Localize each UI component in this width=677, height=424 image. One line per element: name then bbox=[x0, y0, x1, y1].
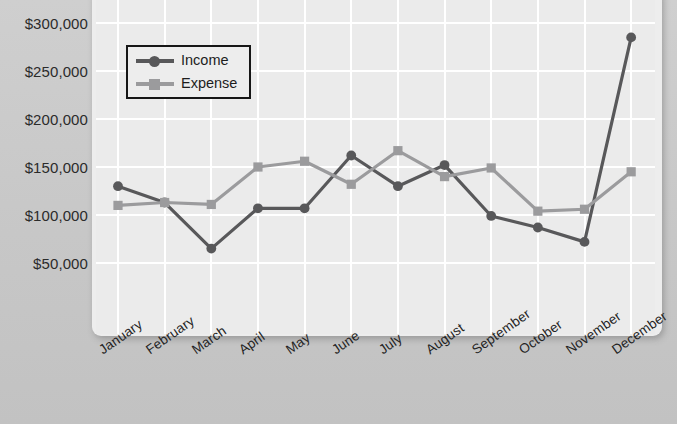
y-axis-tick-label: $50,000 bbox=[0, 255, 88, 272]
data-point-expense[interactable] bbox=[533, 207, 542, 216]
income-marker-icon bbox=[136, 54, 174, 68]
data-point-income[interactable] bbox=[533, 223, 543, 233]
chart-legend[interactable]: Income Expense bbox=[126, 45, 251, 99]
y-axis-tick-label: $150,000 bbox=[0, 159, 88, 176]
data-point-expense[interactable] bbox=[440, 172, 449, 181]
data-point-income[interactable] bbox=[486, 211, 496, 221]
y-axis-tick-label: $250,000 bbox=[0, 63, 88, 80]
legend-item-expense[interactable]: Expense bbox=[136, 75, 237, 92]
data-point-income[interactable] bbox=[580, 237, 590, 247]
data-point-expense[interactable] bbox=[207, 200, 216, 209]
data-point-expense[interactable] bbox=[627, 167, 636, 176]
series-line-expense bbox=[118, 151, 631, 211]
data-point-income[interactable] bbox=[300, 203, 310, 213]
data-point-income[interactable] bbox=[393, 181, 403, 191]
data-point-income[interactable] bbox=[206, 244, 216, 254]
data-point-expense[interactable] bbox=[487, 163, 496, 172]
data-point-expense[interactable] bbox=[300, 157, 309, 166]
expense-marker-icon bbox=[136, 77, 174, 91]
chart-canvas: $300,000$250,000$200,000$150,000$100,000… bbox=[0, 0, 677, 424]
y-axis-tick-label: $100,000 bbox=[0, 207, 88, 224]
y-axis-tick-label: $300,000 bbox=[0, 15, 88, 32]
data-point-income[interactable] bbox=[346, 151, 356, 161]
data-point-income[interactable] bbox=[253, 203, 263, 213]
data-point-expense[interactable] bbox=[347, 180, 356, 189]
data-point-expense[interactable] bbox=[580, 205, 589, 214]
y-axis-tick-label: $200,000 bbox=[0, 111, 88, 128]
data-point-income[interactable] bbox=[440, 160, 450, 170]
data-point-expense[interactable] bbox=[393, 146, 402, 155]
legend-label-expense: Expense bbox=[181, 76, 237, 91]
data-point-expense[interactable] bbox=[253, 162, 262, 171]
data-point-expense[interactable] bbox=[113, 201, 122, 210]
data-point-expense[interactable] bbox=[160, 198, 169, 207]
legend-label-income: Income bbox=[181, 53, 229, 68]
data-point-income[interactable] bbox=[113, 181, 123, 191]
data-point-income[interactable] bbox=[626, 33, 636, 43]
legend-item-income[interactable]: Income bbox=[136, 52, 237, 69]
